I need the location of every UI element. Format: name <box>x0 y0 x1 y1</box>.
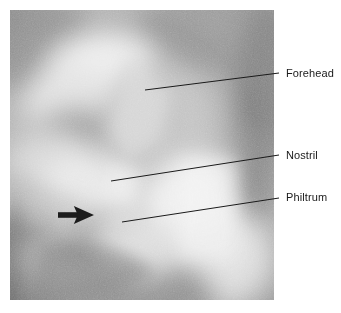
label-forehead: Forehead <box>286 67 334 79</box>
ultrasound-image <box>10 10 274 300</box>
ultrasound-image-canvas <box>10 10 274 300</box>
us-speckle-grain <box>10 10 274 300</box>
annotated-ultrasound-figure: Forehead Nostril Philtrum <box>0 0 341 313</box>
label-nostril: Nostril <box>286 149 318 161</box>
label-philtrum: Philtrum <box>286 191 327 203</box>
